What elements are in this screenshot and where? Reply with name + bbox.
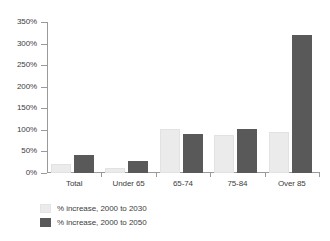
category-label: 65-74 bbox=[156, 179, 210, 188]
x-axis-tick bbox=[210, 173, 211, 177]
category-label: Total bbox=[47, 179, 101, 188]
bar-group bbox=[156, 22, 210, 173]
bar bbox=[128, 161, 148, 174]
x-axis-tick bbox=[265, 173, 266, 177]
legend-label-series-1: % increase, 2000 to 2030 bbox=[57, 204, 147, 213]
bar bbox=[214, 135, 234, 173]
bar bbox=[292, 35, 312, 173]
x-axis-tick bbox=[319, 173, 320, 177]
category-label: Over 85 bbox=[265, 179, 319, 188]
category-label: 75-84 bbox=[210, 179, 264, 188]
legend-item-series-2: % increase, 2000 to 2050 bbox=[40, 216, 147, 229]
category-label: Under 65 bbox=[101, 179, 155, 188]
bar-group bbox=[101, 22, 155, 173]
y-axis-label: 50% bbox=[21, 147, 37, 155]
legend-label-series-2: % increase, 2000 to 2050 bbox=[57, 218, 147, 227]
bar bbox=[237, 129, 257, 173]
bar bbox=[105, 168, 125, 173]
legend-item-series-1: % increase, 2000 to 2030 bbox=[40, 202, 147, 215]
chart-legend: % increase, 2000 to 2030 % increase, 200… bbox=[40, 202, 147, 230]
bar-group bbox=[47, 22, 101, 173]
legend-swatch-dark bbox=[40, 218, 51, 227]
bar bbox=[160, 129, 180, 173]
bar bbox=[51, 164, 71, 173]
y-axis-label: 300% bbox=[17, 40, 37, 48]
y-axis-label: 0% bbox=[26, 169, 37, 177]
legend-swatch-light bbox=[40, 204, 51, 213]
y-axis-label: 200% bbox=[17, 83, 37, 91]
x-axis-tick bbox=[101, 173, 102, 177]
bars-layer bbox=[47, 22, 319, 173]
bar bbox=[269, 132, 289, 173]
bar bbox=[74, 155, 94, 173]
y-axis-label: 350% bbox=[17, 18, 37, 26]
bar-group bbox=[265, 22, 319, 173]
y-axis-label: 150% bbox=[17, 104, 37, 112]
x-axis-tick bbox=[156, 173, 157, 177]
bar bbox=[183, 134, 203, 173]
y-axis-tick bbox=[41, 173, 47, 174]
bar-chart: 0%50%100%150%200%250%300%350% TotalUnder… bbox=[0, 0, 330, 241]
bar-group bbox=[210, 22, 264, 173]
y-axis-label: 100% bbox=[17, 126, 37, 134]
y-axis-label: 250% bbox=[17, 61, 37, 69]
